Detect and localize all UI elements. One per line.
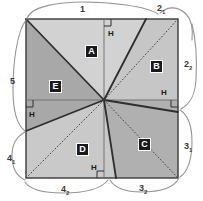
brace-label-side-3-1-sub: 1 <box>189 147 192 153</box>
figure-svg <box>0 0 203 201</box>
geometry-figure-canvas: A B C D E H H H H 1 21 22 31 32 42 41 5 <box>0 0 203 201</box>
brace-label-side-4-1-sub: 1 <box>12 159 15 165</box>
brace-label-side-1-text: 1 <box>80 4 85 14</box>
brace-label-side-5-text: 5 <box>10 76 15 86</box>
brace-label-side-4-1: 41 <box>7 153 15 167</box>
region-label-c: C <box>138 138 151 151</box>
region-label-e: E <box>49 80 62 93</box>
brace-label-side-2-1-sub: 1 <box>162 9 165 15</box>
brace-label-side-3-2-sub: 2 <box>144 189 147 195</box>
region-label-a: A <box>85 45 98 58</box>
brace-label-side-4-2-sub: 2 <box>66 190 69 196</box>
height-label-top: H <box>108 29 114 38</box>
brace-label-side-3-2: 32 <box>139 183 147 197</box>
brace-label-side-5: 5 <box>10 76 15 90</box>
brace-label-side-4-2: 42 <box>61 184 69 198</box>
height-label-right: H <box>161 88 167 97</box>
height-label-bottom: H <box>91 163 97 172</box>
region-label-d: D <box>76 143 89 156</box>
height-label-left: H <box>29 110 35 119</box>
region-label-b: B <box>150 60 163 73</box>
brace-label-side-2-1: 21 <box>157 3 165 17</box>
brace-label-side-1: 1 <box>80 4 85 18</box>
brace-side-1 <box>27 2 158 19</box>
brace-label-side-2-2-sub: 2 <box>189 65 192 71</box>
brace-label-side-3-1: 31 <box>184 141 192 155</box>
brace-label-side-2-2: 22 <box>184 59 192 73</box>
